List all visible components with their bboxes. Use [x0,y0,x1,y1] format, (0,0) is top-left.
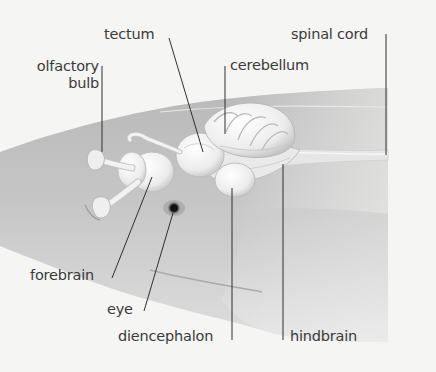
label-diencephalon: diencephalon [118,329,213,344]
label-olfactory-bulb-line2: bulb [25,75,99,92]
label-spinal-cord: spinal cord [291,27,368,42]
fish-body [0,88,388,342]
label-olfactory-bulb-line1: olfactory [25,58,99,75]
label-olfactory-bulb: olfactory bulb [25,58,99,91]
eye-shape [163,200,185,216]
label-tectum: tectum [104,27,154,42]
label-eye: eye [107,302,133,317]
fish-brain-diagram: tectum spinal cord olfactory bulb cerebe… [0,0,436,372]
diencephalon-shape [215,163,255,197]
label-forebrain: forebrain [30,268,94,283]
label-hindbrain: hindbrain [290,329,357,344]
fish-brain-illustration [0,0,436,372]
label-cerebellum: cerebellum [230,58,309,73]
